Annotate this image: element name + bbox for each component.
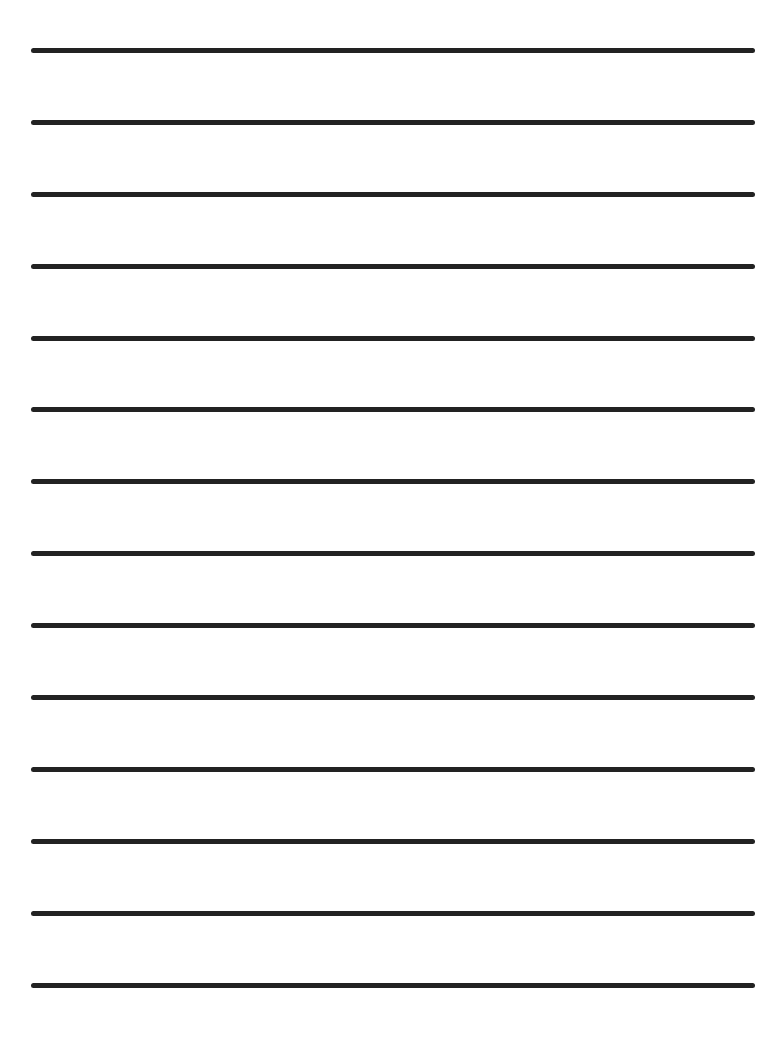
ruled-line [31,120,755,125]
ruled-line [31,695,755,700]
ruled-line [31,479,755,484]
ruled-line [31,48,755,53]
ruled-line [31,336,755,341]
ruled-line [31,623,755,628]
ruled-line [31,407,755,412]
ruled-line [31,192,755,197]
ruled-line [31,264,755,269]
ruled-line [31,839,755,844]
ruled-line [31,983,755,988]
lined-paper-page [0,0,766,1056]
ruled-line [31,911,755,916]
ruled-line [31,551,755,556]
ruled-line [31,767,755,772]
